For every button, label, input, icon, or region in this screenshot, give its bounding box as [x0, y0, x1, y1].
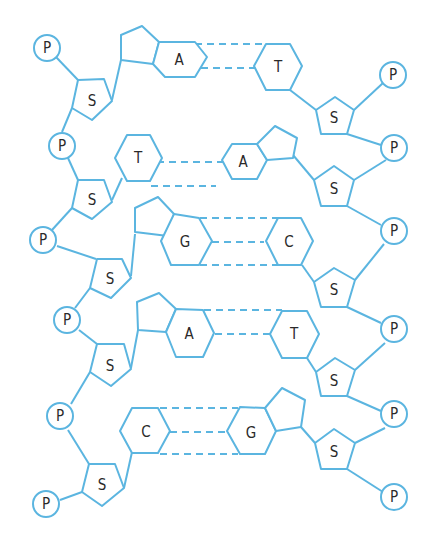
base-purine-right-2: A [222, 126, 297, 179]
svg-text:P: P [39, 231, 47, 249]
base-pyrimidine-right-4: T [270, 311, 319, 358]
svg-text:P: P [390, 488, 398, 506]
svg-text:P: P [390, 320, 398, 338]
base-pair-4: A T [137, 293, 319, 358]
svg-text:P: P [56, 407, 64, 425]
base-pair-1: A T [121, 26, 302, 90]
phosphate-left-2: P [49, 133, 75, 159]
svg-text:S: S [98, 476, 107, 494]
sugar-left-3: S [90, 259, 131, 298]
right-phosphates: P P P P P P [380, 62, 407, 510]
sugar-right-1: S [316, 97, 354, 134]
base-label: C [284, 233, 293, 251]
phosphate-left-4: P [54, 307, 80, 333]
svg-text:P: P [42, 495, 50, 513]
phosphate-right-4: P [381, 316, 407, 342]
svg-text:P: P [390, 222, 398, 240]
sugar-right-2: S [314, 166, 354, 206]
svg-text:P: P [390, 139, 398, 157]
right-sugars: S S S S S [314, 97, 355, 469]
phosphate-right-3: P [381, 218, 407, 244]
base-pair-3: G C [135, 197, 313, 265]
base-label: A [238, 153, 248, 171]
phosphate-right-6: P [381, 484, 407, 510]
sugar-right-3: S [314, 268, 355, 307]
base-label: T [273, 58, 283, 76]
svg-text:S: S [88, 92, 97, 110]
base-pyrimidine-right-1: T [254, 44, 302, 90]
phosphate-left-3: P [30, 227, 56, 253]
svg-text:S: S [330, 109, 339, 127]
phosphate-left-6: P [33, 491, 59, 517]
svg-text:S: S [106, 270, 115, 288]
dna-double-helix-diagram: A T T A G C [0, 0, 428, 538]
base-label: G [180, 233, 190, 251]
sugar-right-5: S [315, 429, 355, 469]
base-purine-left-1: A [121, 26, 207, 77]
base-label: T [289, 325, 299, 343]
base-purine-left-4: A [137, 293, 214, 357]
base-label: C [141, 423, 150, 441]
sugar-left-4: S [90, 344, 131, 386]
base-pyrimidine-left-5: C [120, 408, 170, 453]
svg-text:P: P [63, 311, 71, 329]
phosphate-left-5: P [47, 403, 73, 429]
svg-text:P: P [58, 137, 66, 155]
svg-text:P: P [389, 66, 397, 84]
base-purine-left-3: G [135, 197, 212, 265]
base-purine-right-5: G [227, 388, 305, 454]
sugar-left-2: S [72, 180, 112, 219]
svg-text:S: S [330, 180, 339, 198]
svg-text:S: S [88, 191, 97, 209]
sugar-left-5: S [82, 464, 124, 506]
phosphate-right-1: P [380, 62, 406, 88]
svg-text:S: S [330, 443, 339, 461]
phosphate-left-1: P [34, 35, 60, 61]
phosphate-right-5: P [381, 401, 407, 427]
svg-text:S: S [106, 357, 115, 375]
sugar-left-1: S [72, 79, 112, 120]
svg-text:P: P [390, 405, 398, 423]
base-pair-5: C G [120, 388, 305, 454]
base-label: A [174, 51, 184, 69]
base-pair-2: T A [115, 126, 297, 181]
base-label: A [184, 325, 194, 343]
svg-text:S: S [330, 372, 339, 390]
base-label: T [133, 149, 143, 167]
phosphate-right-2: P [381, 135, 407, 161]
base-pyrimidine-left-2: T [115, 135, 162, 181]
svg-text:S: S [330, 281, 339, 299]
base-label: G [246, 424, 256, 442]
base-pyrimidine-right-3: C [266, 218, 313, 265]
svg-text:P: P [43, 39, 51, 57]
sugar-right-4: S [316, 358, 355, 396]
